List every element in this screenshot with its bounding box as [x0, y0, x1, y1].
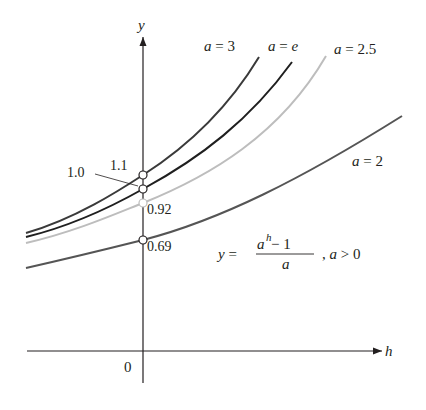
label-0-69: 0.69: [147, 239, 172, 254]
svg-text:− 1: − 1: [271, 236, 291, 252]
marker-0-92: [139, 199, 147, 207]
svg-text:a: a: [257, 236, 265, 252]
label-1-0: 1.0: [67, 165, 85, 180]
svg-text:a: a: [282, 256, 290, 272]
x-axis-label: h: [385, 343, 393, 359]
svg-text:y =: y =: [216, 246, 237, 262]
formula: y = a h − 1 a , a > 0: [216, 231, 360, 272]
chart: y h 0 1.1 1.0 0.92 0.69 a = 3 a = e a = …: [0, 0, 426, 410]
label-1-1: 1.1: [110, 158, 128, 173]
label-0-92: 0.92: [147, 202, 172, 217]
y-axis-label: y: [136, 17, 145, 33]
origin-label: 0: [124, 359, 132, 375]
marker-1-1: [139, 171, 147, 179]
svg-text:, a > 0: , a > 0: [322, 246, 360, 262]
series-label-a-2: a = 2: [352, 153, 383, 169]
marker-1-0: [139, 185, 147, 193]
marker-0-69: [139, 236, 147, 244]
leader-line-1-0: [95, 174, 138, 186]
series-label-a-2-5: a = 2.5: [334, 41, 376, 57]
series-label-a-3: a = 3: [204, 38, 235, 54]
series-label-a-e: a = e: [268, 38, 298, 54]
